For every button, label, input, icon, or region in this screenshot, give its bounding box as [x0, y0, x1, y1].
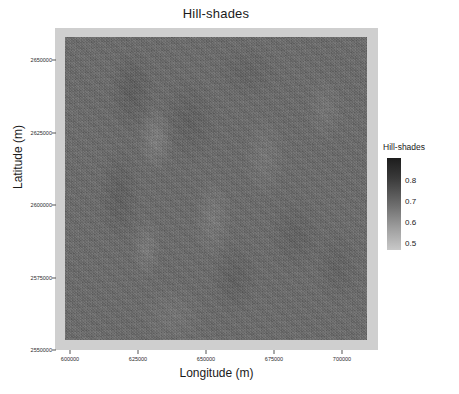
y-tick-mark [52, 60, 56, 61]
y-tick-mark [52, 205, 56, 206]
page-title: Hill-shades [55, 6, 377, 21]
x-tick-mark [206, 350, 207, 354]
x-tick-mark [138, 350, 139, 354]
colorbar-tick-label: 0.5 [405, 239, 416, 248]
x-tick-label: 675000 [265, 356, 283, 362]
x-tick-mark [342, 350, 343, 354]
y-tick-mark [52, 132, 56, 133]
x-tick-mark [70, 350, 71, 354]
x-tick-label: 700000 [333, 356, 351, 362]
colorbar-tick-label: 0.6 [405, 218, 416, 227]
colorbar-tick-label: 0.7 [405, 197, 416, 206]
y-tick-label: 2575000 [31, 275, 52, 281]
x-tick-label: 600000 [61, 356, 79, 362]
y-tick-label: 2600000 [31, 202, 52, 208]
x-axis-ticks [55, 350, 378, 355]
y-tick-label: 2550000 [31, 347, 52, 353]
y-axis-label: Latitude (m) [11, 57, 25, 257]
x-tick-label: 650000 [197, 356, 215, 362]
y-tick-mark [52, 277, 56, 278]
y-axis-ticks [52, 28, 57, 350]
colorbar-gradient [387, 158, 401, 250]
colorbar-title: Hill-shades [383, 142, 425, 152]
y-tick-label: 2650000 [31, 57, 52, 63]
hillshade-raster [65, 37, 367, 340]
hill-shades-figure: Hill-shades 2550000 2575000 2600000 2625… [0, 0, 459, 394]
y-tick-label: 2625000 [31, 130, 52, 136]
plot-panel [55, 28, 378, 350]
x-tick-mark [274, 350, 275, 354]
x-axis-label: Longitude (m) [55, 366, 378, 380]
colorbar-tick-label: 0.8 [405, 176, 416, 185]
x-tick-label: 625000 [129, 356, 147, 362]
colorbar-legend: Hill-shades 0.8 0.7 0.6 0.5 [383, 142, 459, 262]
